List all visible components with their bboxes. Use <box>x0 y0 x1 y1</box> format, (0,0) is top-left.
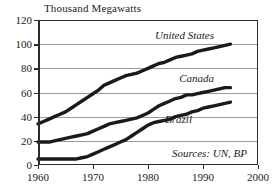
x-tick-mark <box>38 165 39 169</box>
y-axis-tick-label: 120 <box>16 14 33 26</box>
chart-title: Thousand Megawatts <box>44 2 141 14</box>
x-axis-tick-label: 1990 <box>192 171 214 183</box>
x-axis-tick-label: 1960 <box>27 171 49 183</box>
x-tick-mark <box>203 165 204 169</box>
x-tick-mark <box>258 165 259 169</box>
x-axis-tick-label: 1980 <box>137 171 159 183</box>
plot-area: 020406080100120 19601970198019902000 Uni… <box>38 20 258 165</box>
y-axis-tick-label: 40 <box>21 111 32 123</box>
y-axis-tick-label: 80 <box>21 62 32 74</box>
y-axis-tick-label: 0 <box>27 159 33 171</box>
chart-container: Thousand Megawatts 020406080100120 19601… <box>0 0 279 192</box>
y-axis-tick-label: 100 <box>16 38 33 50</box>
series-label-brazil: Brazil <box>165 113 192 125</box>
series-label-united-states: United States <box>155 29 214 41</box>
y-axis-tick-label: 20 <box>21 135 32 147</box>
y-axis-tick-label: 60 <box>21 87 32 99</box>
x-axis-tick-label: 2000 <box>247 171 269 183</box>
x-tick-mark <box>148 165 149 169</box>
x-axis-tick-label: 1970 <box>82 171 104 183</box>
source-note: Sources: UN, BP <box>172 147 247 159</box>
plot-frame-border <box>38 20 258 165</box>
x-tick-mark <box>93 165 94 169</box>
series-label-canada: Canada <box>179 72 214 84</box>
